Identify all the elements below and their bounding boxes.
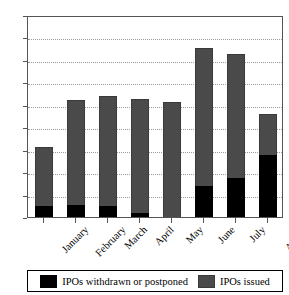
bar-segment-ipos-withdrawn <box>131 213 149 217</box>
plot-area: 0102030405060708090 JanuaryFebruaryMarch… <box>0 0 289 232</box>
legend-entry: IPOs issued <box>198 275 270 288</box>
y-axis-tick-mark <box>23 83 27 84</box>
bar-segment-ipos-issued <box>67 100 85 205</box>
legend-swatch-black <box>40 275 57 288</box>
bar-segment-ipos-withdrawn <box>259 155 277 217</box>
y-axis-tick-mark <box>23 151 27 152</box>
x-axis-tick-label: June <box>216 224 237 245</box>
x-axis-tick-label: April <box>152 224 175 247</box>
y-axis-tick-mark <box>23 16 27 17</box>
bar <box>227 54 245 217</box>
y-axis-tick-mark <box>23 196 27 197</box>
bars-layer <box>28 17 282 217</box>
x-axis-tick-mark <box>171 218 172 223</box>
bar-segment-ipos-issued <box>227 54 245 177</box>
bar-segment-ipos-withdrawn <box>99 206 117 217</box>
bar <box>35 147 53 217</box>
y-axis-tick-mark <box>23 218 27 219</box>
x-axis-tick-mark <box>267 218 268 223</box>
y-axis-tick-mark <box>23 173 27 174</box>
x-axis-tick-mark <box>203 218 204 223</box>
x-axis-tick-label: January <box>60 224 91 255</box>
y-axis-tick-mark <box>23 128 27 129</box>
x-axis-tick-label: March <box>122 224 149 251</box>
y-axis-tick-mark <box>23 61 27 62</box>
y-axis-tick-mark <box>23 106 27 107</box>
bar-segment-ipos-issued <box>35 147 53 206</box>
bar <box>259 114 277 217</box>
bar-segment-ipos-issued <box>195 48 213 186</box>
legend-label: IPOs issued <box>220 276 270 287</box>
x-axis-tick-mark <box>235 218 236 223</box>
plot-frame <box>27 16 283 218</box>
chart-legend: IPOs withdrawn or postponedIPOs issued <box>27 270 283 292</box>
x-axis-tick-mark <box>75 218 76 223</box>
legend-swatch-gray <box>198 275 215 288</box>
bar <box>99 96 117 217</box>
bar-segment-ipos-withdrawn <box>195 186 213 217</box>
legend-entry: IPOs withdrawn or postponed <box>40 275 188 288</box>
stacked-bar-chart: 0102030405060708090 JanuaryFebruaryMarch… <box>0 0 289 295</box>
bar-segment-ipos-withdrawn <box>67 205 85 217</box>
bar-segment-ipos-issued <box>163 102 181 217</box>
x-axis-tick-label: July <box>247 224 267 244</box>
x-axis-tick-label: May <box>184 224 205 245</box>
y-axis-tick-mark <box>23 38 27 39</box>
x-axis-tick-label: August <box>283 224 289 253</box>
legend-label: IPOs withdrawn or postponed <box>62 276 188 287</box>
bar-segment-ipos-issued <box>131 99 149 213</box>
bar-segment-ipos-issued <box>99 96 117 207</box>
bar-segment-ipos-withdrawn <box>35 206 53 217</box>
x-axis-tick-mark <box>43 218 44 223</box>
x-axis-tick-mark <box>139 218 140 223</box>
bar <box>195 48 213 217</box>
bar <box>163 102 181 217</box>
bar-segment-ipos-issued <box>259 114 277 156</box>
bar <box>131 99 149 217</box>
x-axis-tick-mark <box>107 218 108 223</box>
bar <box>67 100 85 217</box>
bar-segment-ipos-withdrawn <box>227 178 245 217</box>
